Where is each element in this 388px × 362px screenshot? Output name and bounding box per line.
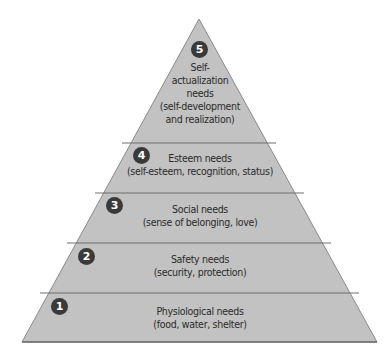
level-5-line: Self- [140, 61, 260, 74]
level-1-badge: 1 [51, 298, 68, 315]
level-1-label: Physiological needs (food, water, shelte… [100, 305, 300, 331]
level-5-line: and realization) [140, 113, 260, 126]
level-4-label: Esteem needs (self-esteem, recognition, … [100, 152, 300, 178]
level-3-description: (sense of belonging, love) [100, 216, 300, 229]
level-4-description: (self-esteem, recognition, status) [100, 165, 300, 178]
level-5-line: needs [140, 87, 260, 100]
level-3-label: Social needs (sense of belonging, love) [100, 203, 300, 229]
level-4-title: Esteem needs [100, 152, 300, 165]
level-2-label: Safety needs (security, protection) [100, 253, 300, 279]
level-2-description: (security, protection) [100, 266, 300, 279]
level-5-label: Self- actualization needs (self-developm… [140, 61, 260, 126]
level-2-title: Safety needs [100, 253, 300, 266]
level-1-description: (food, water, shelter) [100, 318, 300, 331]
level-5-badge: 5 [191, 41, 208, 58]
level-5-line: actualization [140, 74, 260, 87]
level-5-line: (self-development [140, 100, 260, 113]
level-3-title: Social needs [100, 203, 300, 216]
level-1-title: Physiological needs [100, 305, 300, 318]
level-2-badge: 2 [78, 248, 95, 265]
